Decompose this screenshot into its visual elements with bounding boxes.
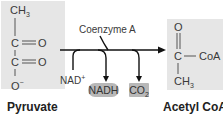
reaction-arrows: [0, 0, 223, 119]
